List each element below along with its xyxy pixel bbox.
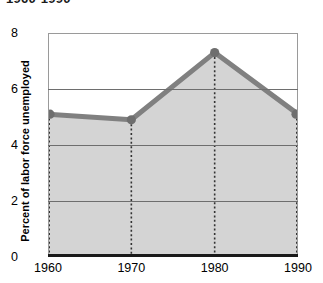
data-point-1980	[210, 48, 219, 57]
x-tick-label-1980: 1980	[201, 261, 229, 275]
gridline-6	[48, 89, 298, 90]
chart-title: 1960-1990	[6, 0, 71, 6]
y-tick-label-4: 4	[0, 138, 18, 152]
x-tick-label-1970: 1970	[117, 261, 145, 275]
unemployment-area-chart: 1960-1990 Percent of labor force unemplo…	[0, 0, 323, 283]
x-tick-label-1960: 1960	[34, 261, 62, 275]
y-tick-label-6: 6	[0, 82, 18, 96]
y-tick-label-8: 8	[0, 26, 18, 40]
y-tick-label-0: 0	[0, 250, 18, 264]
gridline-4	[48, 145, 298, 146]
y-axis-title: Percent of labor force unemployed	[19, 41, 31, 261]
y-tick-label-2: 2	[0, 194, 18, 208]
data-point-1970	[127, 115, 136, 124]
gridline-8	[48, 33, 298, 34]
gridline-2	[48, 201, 298, 202]
x-axis-baseline	[48, 254, 298, 257]
x-tick-label-1990: 1990	[284, 261, 312, 275]
plot-area	[48, 33, 298, 257]
